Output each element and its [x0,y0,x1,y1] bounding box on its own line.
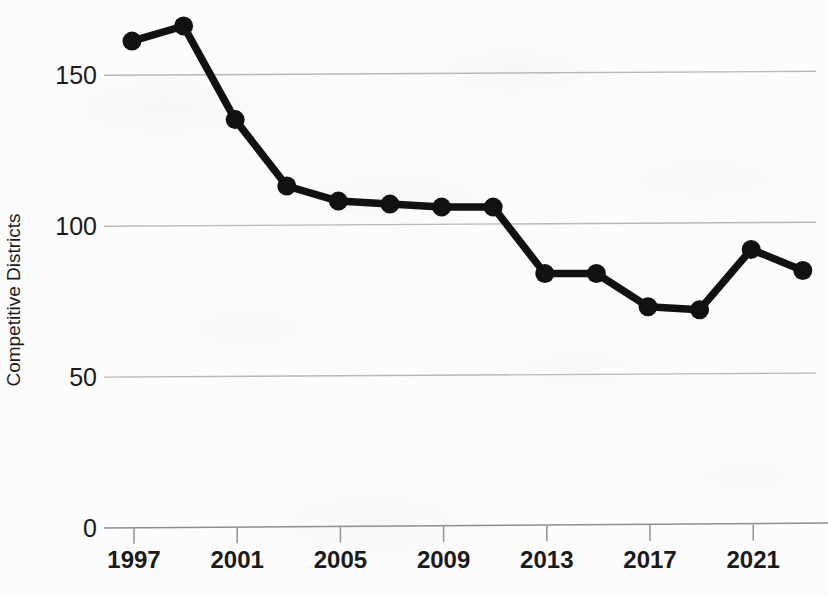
x-tick-label-2001: 2001 [211,546,264,573]
data-point-2007 [381,195,400,214]
data-point-2005 [329,192,348,211]
data-point-1999 [174,17,193,36]
data-point-2021 [742,240,761,259]
x-axis-group [104,523,828,544]
gridlines-group [104,71,816,377]
series-group [123,17,813,320]
y-tick-label-50: 50 [69,363,97,391]
data-point-1997 [123,32,142,51]
y-tick-label-0: 0 [83,514,97,542]
data-point-2011 [484,198,503,217]
data-point-2017 [639,297,658,316]
data-point-2003 [277,177,296,196]
data-point-2019 [690,300,709,319]
x-tick-label-2005: 2005 [314,546,367,573]
x-tick-label-2017: 2017 [623,546,676,573]
data-point-2009 [432,198,451,217]
data-point-2023 [793,261,812,280]
y-tick-label-100: 100 [55,212,97,240]
x-tick-label-2021: 2021 [727,546,780,573]
data-point-2001 [226,110,245,129]
data-point-2013 [535,264,554,283]
y-axis-title: Competitive Districts [3,213,24,386]
chart-page: 050100150 1997200120052009201320172021 C… [0,0,828,595]
series-line-competitive-districts [132,26,803,310]
data-point-2015 [587,264,606,283]
y-tick-label-150: 150 [55,61,97,89]
gridline-y-50 [104,373,816,377]
x-tick-label-2009: 2009 [417,546,470,573]
x-tick-label-1997: 1997 [107,546,160,573]
line-chart: 050100150 1997200120052009201320172021 C… [0,0,828,595]
x-tick-label-2013: 2013 [520,546,573,573]
y-tick-label-group: 050100150 [55,61,97,542]
gridline-y-100 [104,222,816,226]
x-axis-line [104,523,828,528]
x-tick-label-group: 1997200120052009201320172021 [107,546,780,573]
